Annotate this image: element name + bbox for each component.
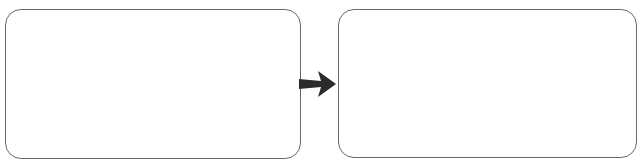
flow-box-left xyxy=(5,9,301,159)
right-arrow-icon xyxy=(299,70,337,98)
flow-box-right xyxy=(338,9,637,158)
